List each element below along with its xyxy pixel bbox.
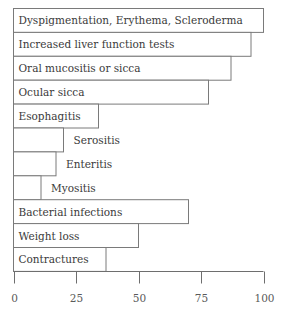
horizontal-bar-chart: Dyspigmentation, Erythema, SclerodermaIn… [0,0,281,313]
bar-label: Myositis [51,182,96,194]
x-axis-ticks: 0255075100 [11,272,274,305]
bar-label: Ocular sicca [19,86,85,98]
bar [14,176,42,200]
bars-group: Dyspigmentation, Erythema, SclerodermaIn… [14,9,264,272]
x-tick-label: 100 [254,292,274,304]
bar [14,152,57,176]
x-tick-label: 0 [11,292,18,304]
x-tick-label: 75 [195,292,208,304]
bar-label: Increased liver function tests [19,38,175,50]
bar-label: Serositis [74,134,120,146]
bar-label: Enteritis [66,158,112,170]
bar-label: Dyspigmentation, Erythema, Scleroderma [19,14,243,26]
bar-label: Weight loss [19,230,80,242]
x-tick-label: 50 [133,292,146,304]
bar [14,128,64,152]
bar-label: Contractures [19,253,89,265]
x-tick-label: 25 [70,292,83,304]
bar-label: Esophagitis [19,110,81,122]
bar-label: Bacterial infections [19,206,123,218]
bar-label: Oral mucositis or sicca [19,62,141,74]
